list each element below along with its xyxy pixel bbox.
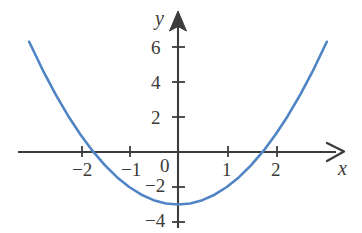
x-tick-label-1: 1 xyxy=(222,160,232,179)
y-tick-label-4: 4 xyxy=(151,73,161,92)
x-tick-label-2: 2 xyxy=(271,160,281,179)
x-tick-label--1: −1 xyxy=(121,160,141,179)
x-tick-label--2: −2 xyxy=(72,160,92,179)
y-tick-label--2: −2 xyxy=(145,176,165,195)
origin-label: 0 xyxy=(160,156,170,175)
y-tick-label-2: 2 xyxy=(151,108,161,127)
x-axis-label: x xyxy=(338,158,347,178)
y-tick-label-6: 6 xyxy=(151,38,161,57)
y-axis-label: y xyxy=(155,8,164,28)
parabola-figure: 6 4 2 −2 −4 0 −2 −1 1 2 x y xyxy=(0,0,362,233)
y-tick-label--4: −4 xyxy=(145,211,165,230)
graph-canvas xyxy=(0,0,362,233)
